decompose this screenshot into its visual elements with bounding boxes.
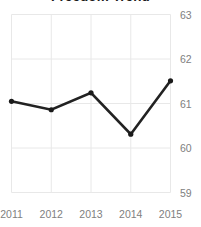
y-axis-tick-label: 62	[180, 53, 192, 65]
x-axis-tick-label: 2011	[0, 208, 29, 220]
y-axis-tick-label: 61	[180, 98, 192, 110]
x-axis-tick-label: 2015	[154, 208, 188, 220]
x-axis-tick-label: 2014	[114, 208, 148, 220]
y-axis-tick-label: 59	[180, 187, 192, 199]
chart-plot-area	[0, 0, 201, 227]
y-axis-tick-label: 63	[180, 9, 192, 21]
y-axis-tick-label: 60	[180, 142, 192, 154]
x-axis-tick-label: 2012	[34, 208, 68, 220]
x-axis-tick-label: 2013	[74, 208, 108, 220]
chart-container: Freedom Trend 5960616263 201120122013201…	[0, 0, 201, 227]
